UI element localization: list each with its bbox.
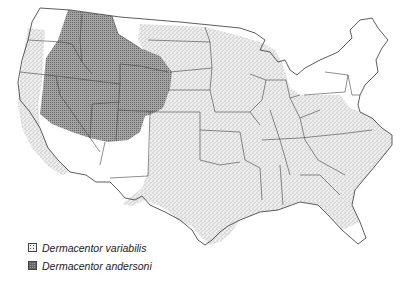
stipple-swatch-icon: [28, 243, 37, 252]
legend-label: Dermacentor variabilis: [42, 242, 146, 254]
crosshatch-swatch-icon: [28, 261, 37, 270]
legend-label: Dermacentor andersoni: [42, 260, 152, 272]
legend-item-andersoni: Dermacentor andersoni: [28, 258, 152, 273]
variabilis-east-region: [122, 24, 392, 245]
legend-item-variabilis: Dermacentor variabilis: [28, 240, 152, 255]
legend: Dermacentor variabilis Dermacentor ander…: [28, 240, 152, 276]
